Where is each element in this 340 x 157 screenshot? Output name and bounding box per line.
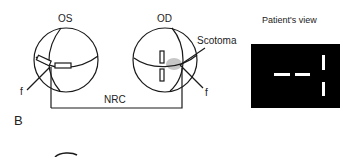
od-fovea-label: f xyxy=(205,87,208,98)
right-eye-od xyxy=(133,28,205,92)
vertical-mark-bottom xyxy=(322,82,325,96)
os-label: OS xyxy=(58,13,73,24)
od-label: OD xyxy=(157,13,172,24)
vertical-mark-top xyxy=(322,55,325,70)
os-fovea-label: f xyxy=(20,86,23,97)
panel-label: B xyxy=(14,113,23,128)
horizontal-mark-left xyxy=(274,73,290,76)
nrc-label: NRC xyxy=(104,94,126,105)
left-eye-os xyxy=(27,28,98,108)
patients-view-panel xyxy=(251,44,340,108)
horizontal-mark-right xyxy=(295,73,310,76)
scotoma-label: Scotoma xyxy=(197,35,237,46)
diagram-canvas: OS f NRC OD Scotoma f Patient's view B xyxy=(0,0,340,157)
next-figure-arc xyxy=(55,153,77,157)
patients-view-title: Patient's view xyxy=(262,15,317,25)
